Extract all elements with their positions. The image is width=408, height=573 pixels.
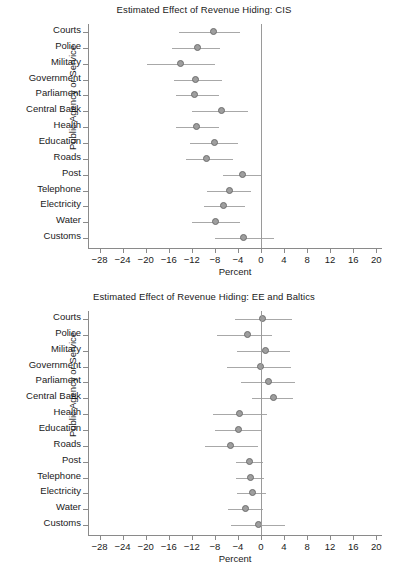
y-tick-label-customs: Customs	[44, 230, 81, 241]
y-tick-label-health: Health	[54, 119, 81, 130]
x-tick-label: −28	[91, 254, 107, 265]
point-estimate-marker	[259, 315, 266, 322]
y-tick-label-education: Education	[39, 135, 81, 146]
y-tick-label-post: Post	[62, 167, 81, 178]
data-row-cis: Customs	[88, 231, 382, 246]
y-tick-label-central-bank: Central Bank	[26, 103, 81, 114]
data-row-cis: Central Bank	[88, 104, 382, 119]
x-tick-mark	[238, 535, 239, 540]
y-tick-mark	[83, 143, 88, 144]
y-tick-mark	[83, 159, 88, 160]
y-tick-mark	[83, 430, 88, 431]
plot-area-cis: CourtsPoliceMilitaryGovernmentParliament…	[88, 24, 382, 246]
data-row-cis: Telephone	[88, 184, 382, 199]
point-estimate-marker	[220, 202, 227, 209]
data-row-cis: Post	[88, 168, 382, 183]
data-row-cis: Electricity	[88, 199, 382, 214]
point-estimate-marker	[244, 331, 251, 338]
x-tick-label: −28	[91, 541, 107, 552]
x-tick-label: 4	[281, 254, 286, 265]
y-tick-mark	[83, 206, 88, 207]
x-tick-mark	[146, 248, 147, 253]
y-tick-label-parliament: Parliament	[36, 87, 81, 98]
x-tick-label: −4	[232, 541, 243, 552]
data-row-ee-baltics: Government	[88, 360, 382, 375]
data-row-ee-baltics: Military	[88, 344, 382, 359]
y-tick-mark	[83, 446, 88, 447]
y-tick-label-parliament: Parliament	[36, 374, 81, 385]
data-row-ee-baltics: Police	[88, 328, 382, 343]
x-tick-mark	[330, 535, 331, 540]
data-row-ee-baltics: Customs	[88, 518, 382, 533]
x-tick-label: 8	[304, 541, 309, 552]
x-tick-label: −8	[209, 254, 220, 265]
figure-revenue-hiding-effects: Estimated Effect of Revenue Hiding: CIS …	[0, 0, 408, 573]
y-tick-mark	[83, 175, 88, 176]
point-estimate-marker	[177, 60, 184, 67]
x-tick-label: 20	[371, 254, 382, 265]
data-row-ee-baltics: Water	[88, 502, 382, 517]
y-tick-mark	[83, 414, 88, 415]
x-tick-label: −20	[138, 541, 154, 552]
x-axis-title-cis: Percent	[88, 266, 382, 277]
y-tick-label-roads: Roads	[54, 438, 81, 449]
x-tick-label: −4	[232, 254, 243, 265]
data-row-ee-baltics: Parliament	[88, 375, 382, 390]
zero-reference-line-cis	[261, 24, 262, 248]
x-tick-mark	[353, 248, 354, 253]
data-row-ee-baltics: Telephone	[88, 471, 382, 486]
y-tick-mark	[83, 127, 88, 128]
data-row-ee-baltics: Courts	[88, 312, 382, 327]
zero-reference-line-ee-baltics	[261, 311, 262, 535]
x-tick-mark	[123, 248, 124, 253]
x-tick-mark	[169, 248, 170, 253]
y-tick-label-courts: Courts	[53, 24, 81, 35]
data-row-cis: Parliament	[88, 88, 382, 103]
x-tick-mark	[307, 248, 308, 253]
x-tick-label: 4	[281, 541, 286, 552]
x-tick-mark	[146, 535, 147, 540]
data-row-ee-baltics: Roads	[88, 439, 382, 454]
plot-area-ee-baltics: CourtsPoliceMilitaryGovernmentParliament…	[88, 311, 382, 533]
data-row-ee-baltics: Post	[88, 455, 382, 470]
point-estimate-marker	[262, 347, 269, 354]
y-tick-label-government: Government	[29, 359, 81, 370]
y-tick-mark	[83, 111, 88, 112]
y-tick-label-education: Education	[39, 422, 81, 433]
data-row-ee-baltics: Education	[88, 423, 382, 438]
y-tick-mark	[83, 32, 88, 33]
y-tick-mark	[83, 222, 88, 223]
data-row-ee-baltics: Health	[88, 407, 382, 422]
y-tick-mark	[83, 319, 88, 320]
point-estimate-marker	[235, 426, 242, 433]
x-axis-line-cis	[88, 248, 382, 249]
x-tick-mark	[215, 535, 216, 540]
y-tick-label-police: Police	[55, 327, 81, 338]
x-tick-label: −12	[184, 541, 200, 552]
x-tick-mark	[307, 535, 308, 540]
point-estimate-marker	[226, 187, 233, 194]
point-estimate-marker	[265, 378, 272, 385]
chart-panel-ee-baltics: Estimated Effect of Revenue Hiding: EE a…	[0, 287, 408, 570]
x-tick-label: 16	[348, 541, 359, 552]
y-tick-label-roads: Roads	[54, 151, 81, 162]
y-tick-label-post: Post	[62, 454, 81, 465]
x-tick-label: −20	[138, 254, 154, 265]
x-tick-mark	[100, 248, 101, 253]
data-row-cis: Education	[88, 136, 382, 151]
y-tick-label-electricity: Electricity	[40, 485, 81, 496]
chart-panel-cis: Estimated Effect of Revenue Hiding: CIS …	[0, 0, 408, 283]
y-tick-mark	[83, 462, 88, 463]
y-tick-label-military: Military	[51, 56, 81, 67]
x-tick-label: −16	[161, 254, 177, 265]
y-tick-label-customs: Customs	[44, 517, 81, 528]
y-tick-label-water: Water	[56, 501, 81, 512]
data-row-cis: Roads	[88, 152, 382, 167]
y-tick-label-military: Military	[51, 343, 81, 354]
data-row-ee-baltics: Central Bank	[88, 391, 382, 406]
y-tick-label-courts: Courts	[53, 311, 81, 322]
y-tick-label-telephone: Telephone	[37, 470, 81, 481]
x-tick-label: 12	[325, 541, 336, 552]
x-tick-label: 20	[371, 541, 382, 552]
x-tick-mark	[284, 248, 285, 253]
